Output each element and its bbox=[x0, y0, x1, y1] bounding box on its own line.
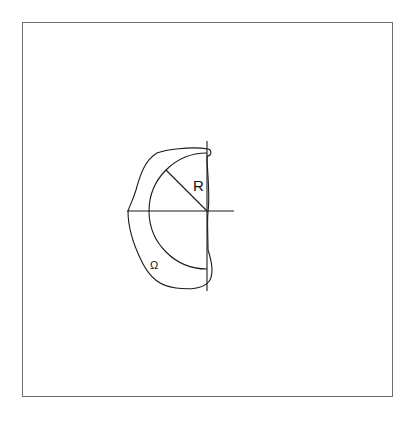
radius-label: R bbox=[193, 178, 204, 193]
domain-boundary-curve bbox=[128, 148, 212, 289]
domain-label: Ω bbox=[150, 260, 158, 271]
diagram-canvas bbox=[0, 0, 415, 423]
